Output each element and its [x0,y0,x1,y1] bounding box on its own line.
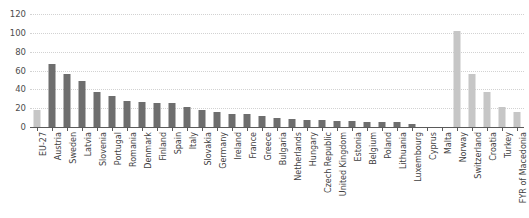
bar-slot [374,14,389,127]
bar[interactable] [483,92,490,127]
bar-slot [210,14,225,127]
bar[interactable] [318,120,325,127]
bar[interactable] [199,110,206,127]
x-axis-tick [367,127,368,131]
bar[interactable] [79,81,86,127]
x-axis-tick [352,127,353,131]
x-axis-tick [127,127,128,131]
x-axis-labels: EU-27AustriaSwedenLatviaSloveniaPortugal… [30,132,524,218]
x-axis-tick [217,127,218,131]
bar-slot [314,14,329,127]
y-axis-tick-label: 20 [0,104,26,113]
x-axis-category-label: Belgium [370,132,378,165]
bar-slot [105,14,120,127]
bar-slot [509,14,524,127]
x-axis-tick [37,127,38,131]
x-axis-category-label: Lithuania [400,132,408,169]
bar-slot [419,14,434,127]
bar[interactable] [139,102,146,127]
x-axis-tick [82,127,83,131]
x-axis-category-label: Ireland [235,132,243,160]
x-axis-tick [67,127,68,131]
x-axis-category-label: Spain [175,132,183,154]
bar[interactable] [244,114,251,127]
x-axis-category-label: France [250,132,258,159]
bar-slot [404,14,419,127]
bar-slot [195,14,210,127]
bar-series [30,14,524,127]
x-axis-tick [187,127,188,131]
bar[interactable] [109,96,116,127]
x-axis-tick [487,127,488,131]
y-axis-tick-label: 80 [0,48,26,57]
bar-slot [479,14,494,127]
bar-slot [135,14,150,127]
x-axis-category-label: Malta [445,132,453,154]
bar-slot [120,14,135,127]
bar[interactable] [169,103,176,127]
x-axis-tick [232,127,233,131]
x-axis-tick [397,127,398,131]
bar-slot [90,14,105,127]
bar-slot [255,14,270,127]
x-axis-tick [457,127,458,131]
x-axis-tick [472,127,473,131]
bar-slot [329,14,344,127]
bar-slot [30,14,45,127]
x-axis-tick [307,127,308,131]
bar[interactable] [184,107,191,127]
bar[interactable] [49,64,56,127]
bar-slot [284,14,299,127]
bar-chart: 020406080100120 EU-27AustriaSwedenLatvia… [0,0,529,218]
bar-slot [344,14,359,127]
x-axis-tick [502,127,503,131]
bar[interactable] [513,112,520,127]
bar[interactable] [214,112,221,127]
x-axis-category-label: Romania [130,132,138,167]
x-axis-category-label: Luxembourg [415,132,423,182]
x-axis-category-label: Netherlands [295,132,303,181]
x-axis-category-label: Czech Republic [325,132,333,193]
bar[interactable] [273,118,280,127]
bar-slot [389,14,404,127]
x-axis-tick [157,127,158,131]
y-axis-tick-label: 60 [0,67,26,76]
bar[interactable] [259,116,266,127]
x-axis-category-label: Latvia [85,132,93,156]
x-axis-tick [172,127,173,131]
bar-slot [60,14,75,127]
bar[interactable] [303,120,310,127]
x-axis-tick [247,127,248,131]
x-axis-category-label: Poland [385,132,393,159]
x-axis-tick [517,127,518,131]
x-axis-category-label: Portugal [115,132,123,165]
x-axis-category-label: Turkey [505,132,513,158]
x-axis-category-label: Austria [55,132,63,160]
bar[interactable] [34,110,41,127]
bar[interactable] [64,74,71,127]
bar[interactable] [124,101,131,127]
bar[interactable] [468,74,475,127]
x-axis-tick [322,127,323,131]
x-axis-category-label: Denmark [145,132,153,169]
bar[interactable] [288,119,295,127]
x-axis-tick [202,127,203,131]
bar[interactable] [94,92,101,127]
y-axis-tick-label: 100 [0,29,26,38]
bar[interactable] [229,114,236,127]
x-axis-tick [112,127,113,131]
x-axis-tick [442,127,443,131]
x-axis-category-label: Bulgaria [280,132,288,165]
bar-slot [180,14,195,127]
x-axis-category-label: United Kingdom [340,132,348,196]
x-axis-category-label: Finland [160,132,168,161]
bar[interactable] [453,31,460,127]
x-axis-tick [142,127,143,131]
bar[interactable] [154,103,161,127]
x-axis-category-label: Croatia [490,132,498,161]
x-axis-category-label: Norway [460,132,468,162]
bar[interactable] [498,107,505,127]
bar-slot [434,14,449,127]
y-axis-tick-label: 120 [0,10,26,19]
bar-slot [464,14,479,127]
